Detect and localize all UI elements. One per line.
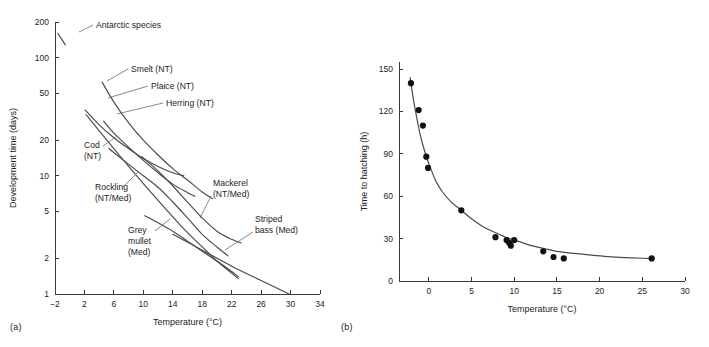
figure-container: −22610141822263034125102050100200Tempera…	[0, 0, 709, 347]
series-label: Herring (NT)	[166, 98, 214, 108]
data-point	[420, 122, 426, 128]
data-point	[540, 248, 546, 254]
panel-a: −22610141822263034125102050100200Tempera…	[0, 0, 355, 347]
panel-b-caption: (b)	[341, 322, 353, 332]
series-label: Antarctic species	[96, 20, 161, 30]
panel-a-caption: (a)	[10, 322, 22, 332]
series-label-line: bass (Med)	[255, 225, 298, 235]
panel-b-plot: 0510152025300306090120150Temperature (°C…	[355, 0, 709, 347]
data-point	[508, 243, 514, 249]
x-tick-label: 25	[638, 286, 648, 296]
data-point	[511, 237, 517, 243]
series-curve	[58, 33, 65, 44]
data-point	[425, 165, 431, 171]
x-tick-label: 15	[552, 286, 562, 296]
y-tick-label: 60	[384, 191, 394, 201]
y-tick-label: 1	[44, 289, 49, 299]
x-tick-label: 26	[256, 299, 266, 309]
x-tick-label: 22	[227, 299, 237, 309]
data-point	[649, 255, 655, 261]
y-tick-label: 120	[379, 106, 393, 116]
x-tick-label: 10	[139, 299, 149, 309]
x-tick-label: 2	[82, 299, 87, 309]
x-tick-label: 34	[315, 299, 325, 309]
y-tick-label: 90	[384, 149, 394, 159]
y-tick-label: 30	[384, 234, 394, 244]
series-label-line: Mackerel	[213, 178, 248, 188]
y-tick-label: 0	[388, 276, 393, 286]
x-tick-label: −2	[50, 299, 60, 309]
series-label-line: (NT)	[84, 151, 101, 161]
series-label-line: Smelt (NT)	[131, 64, 173, 74]
data-point	[458, 207, 464, 213]
series-label: Stripedbass (Med)	[255, 214, 298, 235]
series-label-line: Grey	[128, 225, 147, 235]
x-tick-label: 20	[595, 286, 605, 296]
series-label-line: Antarctic species	[96, 20, 161, 30]
panel-a-plot: −22610141822263034125102050100200Tempera…	[0, 0, 355, 347]
data-point	[423, 154, 429, 160]
y-tick-label: 150	[379, 64, 393, 74]
series-label: Plaice (NT)	[151, 81, 194, 91]
y-tick-label: 100	[35, 53, 49, 63]
label-leader-line	[108, 86, 148, 98]
series-label-line: mullet	[128, 236, 152, 246]
series-label-line: (NT/Med)	[213, 189, 249, 199]
series-label: Mackerel(NT/Med)	[213, 178, 249, 199]
y-tick-label: 2	[44, 253, 49, 263]
data-point	[408, 80, 414, 86]
panel-b-y-axis-title: Time to hatching (h)	[359, 132, 369, 212]
data-point	[561, 255, 567, 261]
x-tick-label: 18	[197, 299, 207, 309]
y-tick-label: 10	[40, 171, 50, 181]
x-tick-label: 0	[427, 286, 432, 296]
series-label: Cod(NT)	[84, 140, 101, 161]
panel-b: 0510152025300306090120150Temperature (°C…	[355, 0, 709, 347]
series-label-line: Plaice (NT)	[151, 81, 194, 91]
x-tick-label: 30	[286, 299, 296, 309]
x-tick-label: 10	[510, 286, 520, 296]
y-tick-label: 200	[35, 17, 49, 27]
panel-a-y-axis-title: Development time (days)	[8, 108, 18, 208]
y-tick-label: 50	[40, 88, 50, 98]
data-point	[550, 254, 556, 260]
x-tick-label: 5	[469, 286, 474, 296]
label-leader-line	[107, 69, 128, 81]
label-leader-line	[79, 25, 93, 32]
data-point	[416, 107, 422, 113]
series-label-line: Rockling	[95, 182, 128, 192]
series-curve	[173, 234, 289, 294]
series-label-line: (NT/Med)	[95, 193, 131, 203]
panel-b-x-axis-title: Temperature (°C)	[507, 304, 576, 314]
series-label-line: Striped	[255, 214, 282, 224]
label-leader-line	[155, 219, 170, 231]
x-tick-label: 30	[680, 286, 690, 296]
series-label-line: Herring (NT)	[166, 98, 214, 108]
series-label: Smelt (NT)	[131, 64, 173, 74]
x-tick-label: 14	[168, 299, 178, 309]
label-leader-line	[200, 196, 211, 218]
data-point	[492, 234, 498, 240]
series-label: Rockling(NT/Med)	[95, 182, 131, 203]
series-label-line: Cod	[84, 140, 100, 150]
label-leader-line	[117, 103, 163, 114]
label-leader-line	[225, 232, 253, 250]
y-tick-label: 20	[40, 135, 50, 145]
series-label: Greymullet(Med)	[128, 225, 152, 257]
x-tick-label: 6	[112, 299, 117, 309]
panel-a-x-axis-title: Temperature (°C)	[153, 317, 222, 327]
fit-curve	[410, 78, 653, 259]
series-label-line: (Med)	[128, 247, 151, 257]
y-tick-label: 5	[44, 206, 49, 216]
